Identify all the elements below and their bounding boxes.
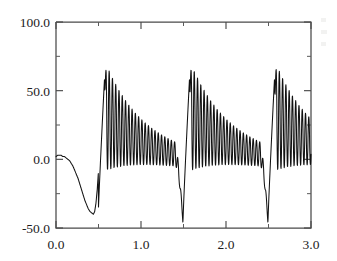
y-tick-label-2: 0.0 bbox=[33, 152, 50, 167]
chart-figure: 100.0 50.0 0.0 -50.0 0.0 1.0 2.0 3.0 bbox=[0, 0, 337, 261]
y-tick-label-1: 50.0 bbox=[26, 84, 50, 99]
y-tick-label-0: 100.0 bbox=[20, 15, 51, 30]
y-tick-label-3: -50.0 bbox=[22, 221, 50, 236]
x-tick-label-0: 0.0 bbox=[48, 237, 65, 252]
x-tick-label-1: 1.0 bbox=[133, 237, 150, 252]
x-tick-label-3: 3.0 bbox=[303, 237, 320, 252]
plot-canvas: 100.0 50.0 0.0 -50.0 0.0 1.0 2.0 3.0 bbox=[0, 0, 337, 261]
x-tick-label-2: 2.0 bbox=[218, 237, 235, 252]
